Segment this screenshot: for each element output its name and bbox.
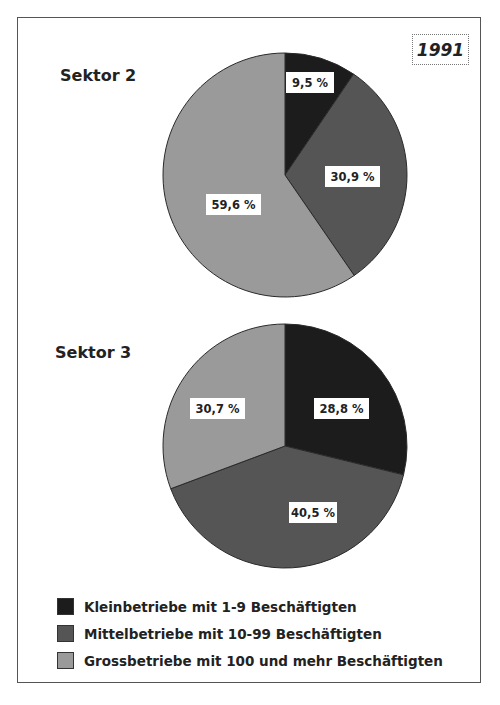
slice-value-label: 28,8 % xyxy=(314,398,369,419)
legend-label: Grossbetriebe mit 100 und mehr Beschäfti… xyxy=(84,653,443,669)
slice-value-label: 30,7 % xyxy=(190,398,245,419)
legend-swatch-medium xyxy=(57,625,74,642)
legend-item-grossbetriebe: Grossbetriebe mit 100 und mehr Beschäfti… xyxy=(57,647,443,674)
svg-text:40,5 %: 40,5 % xyxy=(291,506,335,520)
legend-item-mittelbetriebe: Mittelbetriebe mit 10-99 Beschäftigten xyxy=(57,620,443,647)
svg-text:28,8 %: 28,8 % xyxy=(320,402,364,416)
legend-swatch-dark xyxy=(57,598,74,615)
legend-label: Mittelbetriebe mit 10-99 Beschäftigten xyxy=(84,626,382,642)
legend-swatch-light xyxy=(57,652,74,669)
slice-value-label: 40,5 % xyxy=(289,502,337,523)
legend-label: Kleinbetriebe mit 1-9 Beschäftigten xyxy=(84,599,357,615)
legend-item-kleinbetriebe: Kleinbetriebe mit 1-9 Beschäftigten xyxy=(57,593,443,620)
svg-text:30,7 %: 30,7 % xyxy=(196,402,240,416)
legend: Kleinbetriebe mit 1-9 Beschäftigten Mitt… xyxy=(57,593,443,674)
